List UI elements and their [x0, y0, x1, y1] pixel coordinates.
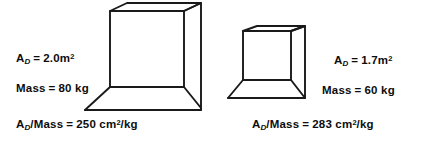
large-cube-right-face [184, 3, 201, 108]
small-cube-area-symbol: A [334, 54, 343, 66]
large-cube-ratio-divider: /Mass [30, 118, 63, 130]
small-cube-area-equals: = [348, 54, 361, 66]
small-cube-area-exponent: 2 [388, 54, 392, 63]
large-cube-mass-value: 80 kg [59, 82, 89, 94]
small-cube-ratio-symbol: A [252, 118, 261, 130]
large-cube-area-equals: = [30, 52, 43, 64]
large-cube-bottom-face [85, 87, 201, 110]
small-cube-area-label: AD=1.7m2 [334, 54, 392, 68]
small-cube-ratio-equals: = [299, 118, 312, 130]
drag-area-to-mass-figure: AD=2.0m2 Mass=80 kg AD/Mass=250 cm2/kg A… [0, 0, 430, 150]
large-cube-ratio-label: AD/Mass=250 cm2/kg [16, 118, 138, 132]
small-cube-right-face [291, 26, 305, 98]
small-cube-ratio-unit: /kg [357, 118, 374, 130]
small-cube [228, 26, 305, 98]
large-cube-area-value: 2.0m [43, 52, 70, 64]
large-cube-area-symbol: A [16, 52, 25, 64]
large-cube-ratio-equals: = [63, 118, 76, 130]
large-cube-mass-label: Mass=80 kg [16, 82, 89, 94]
small-cube-mass-label: Mass=60 kg [322, 84, 395, 96]
small-cube-mass-value: 60 kg [365, 84, 395, 96]
small-cube-mass-equals: = [352, 84, 365, 96]
large-cube [85, 3, 201, 110]
small-cube-ratio-divider: /Mass [266, 118, 299, 130]
large-cube-area-label: AD=2.0m2 [16, 52, 74, 66]
small-cube-front-face [243, 31, 291, 80]
large-cube-area-exponent: 2 [70, 52, 74, 61]
small-cube-area-value: 1.7m [361, 54, 388, 66]
large-cube-ratio-value: 250 cm [76, 118, 116, 130]
small-cube-ratio-value: 283 cm [312, 118, 352, 130]
large-cube-ratio-unit: /kg [121, 118, 138, 130]
large-cube-front-face [110, 11, 184, 87]
large-cube-mass-name: Mass [16, 82, 46, 94]
small-cube-mass-name: Mass [322, 84, 352, 96]
large-cube-ratio-symbol: A [16, 118, 25, 130]
small-cube-ratio-label: AD/Mass=283 cm2/kg [252, 118, 374, 132]
large-cube-mass-equals: = [46, 82, 59, 94]
